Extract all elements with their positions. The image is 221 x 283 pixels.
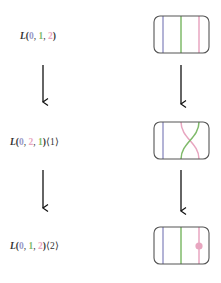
box-crossing xyxy=(154,122,209,159)
diagram-canvas xyxy=(0,0,221,283)
dot-icon xyxy=(195,242,202,249)
strand-green xyxy=(181,122,199,159)
box-identity xyxy=(154,16,209,53)
box-dot xyxy=(154,227,209,264)
